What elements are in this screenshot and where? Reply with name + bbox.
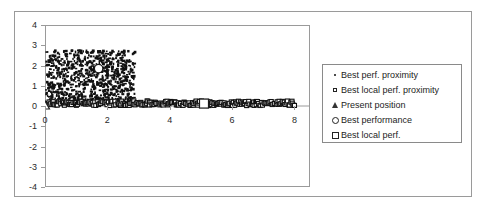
legend-small-square-icon [329, 84, 341, 96]
legend-item: Best performance [329, 113, 461, 127]
legend-item-label: Best local perf. [341, 130, 401, 141]
y-tick-label: -4 [21, 182, 37, 192]
x-tick-mark [170, 106, 171, 110]
legend-item-label: Best perf. proximity [341, 70, 418, 81]
square-icon [332, 132, 339, 139]
small-square-icon [333, 88, 337, 92]
y-tick-label: 3 [21, 40, 37, 50]
x-tick-mark [232, 106, 233, 110]
legend-square-icon [329, 129, 341, 141]
y-tick-mark [41, 147, 45, 148]
legend-item: Best local perf. proximity [329, 83, 461, 97]
y-tick-label: 4 [21, 20, 37, 30]
x-tick-label: 2 [99, 115, 115, 125]
y-tick-label: -1 [21, 121, 37, 131]
marker-best-local-perf [200, 99, 209, 108]
y-tick-label: 0 [21, 101, 37, 111]
legend-circle-icon [329, 114, 341, 126]
legend-item-label: Present position [341, 100, 406, 111]
x-tick-label: 4 [162, 115, 178, 125]
circle-icon [332, 117, 339, 124]
legend-item-label: Best performance [341, 115, 412, 126]
y-tick-label: -2 [21, 142, 37, 152]
x-tick-mark [107, 106, 108, 110]
legend-item: Best local perf. [329, 128, 461, 142]
x-tick-mark [294, 106, 295, 110]
x-tick-label: 0 [37, 115, 53, 125]
y-tick-mark [41, 25, 45, 26]
legend-dot-icon [329, 69, 341, 81]
chart-figure: 43210-1-2-3-4 02468 Best perf. proximity… [0, 0, 486, 212]
y-tick-mark [41, 187, 45, 188]
legend-item: Best perf. proximity [329, 68, 461, 82]
x-tick-mark [45, 106, 46, 110]
y-tick-label: -3 [21, 162, 37, 172]
series-best-perf-proximity [45, 49, 136, 106]
y-tick-mark [41, 126, 45, 127]
y-tick-label: 1 [21, 81, 37, 91]
x-tick-label: 6 [224, 115, 240, 125]
legend-triangle-icon [329, 99, 341, 111]
y-tick-mark [41, 167, 45, 168]
y-tick-mark [41, 86, 45, 87]
scatter-plot-canvas [45, 25, 310, 187]
x-tick-label: 8 [286, 115, 302, 125]
marker-best-performance [94, 64, 102, 72]
legend-item-label: Best local perf. proximity [341, 85, 439, 96]
y-tick-label: 2 [21, 61, 37, 71]
dot-icon [334, 74, 336, 76]
legend-item: Present position [329, 98, 461, 112]
y-tick-mark [41, 66, 45, 67]
y-tick-mark [41, 45, 45, 46]
triangle-icon [332, 102, 338, 108]
chart-legend: Best perf. proximityBest local perf. pro… [322, 64, 462, 143]
